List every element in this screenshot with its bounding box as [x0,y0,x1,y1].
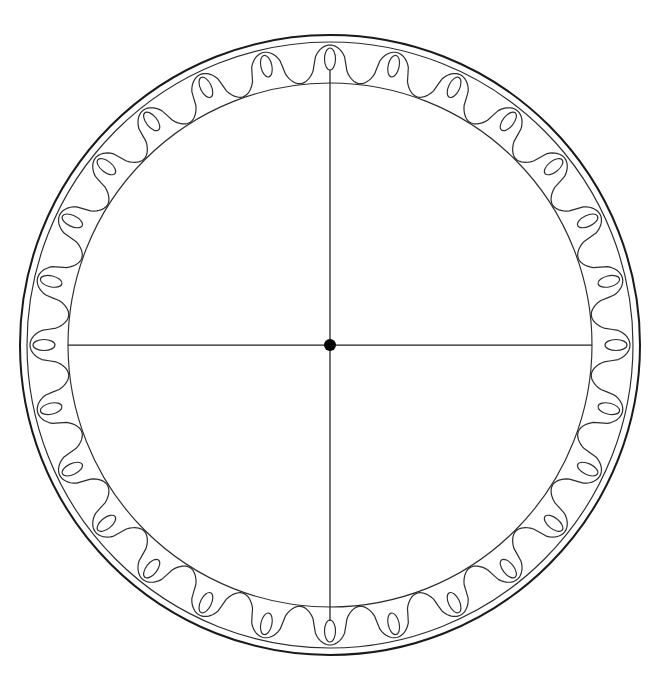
center-dot [324,339,336,351]
center-hub-dot [324,339,336,351]
rosette-diagram [0,0,653,685]
figure-canvas [0,0,653,685]
